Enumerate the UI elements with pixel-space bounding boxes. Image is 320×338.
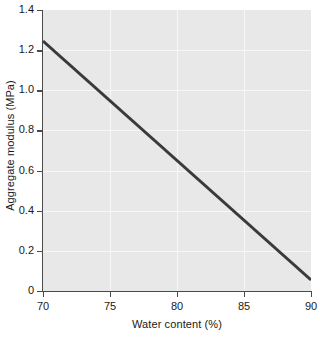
y-tick-label: 0.6: [0, 165, 34, 176]
x-axis-label: Water content (%): [43, 318, 311, 330]
x-tick-mark: [110, 292, 111, 297]
x-tick-label: 90: [291, 300, 320, 312]
y-tick-mark: [37, 171, 42, 172]
x-tick-mark: [311, 292, 312, 297]
y-tick-label: 0.4: [0, 205, 34, 216]
y-tick-mark: [37, 211, 42, 212]
data-series-line: [43, 10, 311, 291]
y-tick-mark: [37, 50, 42, 51]
y-axis-line: [42, 10, 43, 292]
chart-figure: Aggregate modulus (MPa) 00.20.40.60.81.0…: [0, 0, 320, 338]
x-tick-mark: [244, 292, 245, 297]
y-tick-mark: [37, 291, 42, 292]
y-tick-label: 0.8: [0, 124, 34, 135]
y-tick-label: 1.0: [0, 84, 34, 95]
y-tick-mark: [37, 90, 42, 91]
y-tick-mark: [37, 251, 42, 252]
x-tick-label: 80: [157, 300, 197, 312]
plot-area: [43, 10, 311, 291]
y-tick-label: 1.2: [0, 44, 34, 55]
y-tick-mark: [37, 130, 42, 131]
y-tick-label: 0.2: [0, 245, 34, 256]
x-tick-label: 70: [23, 300, 63, 312]
x-tick-mark: [177, 292, 178, 297]
x-tick-label: 85: [224, 300, 264, 312]
y-tick-label: 0: [0, 285, 34, 296]
y-tick-mark: [37, 10, 42, 11]
x-tick-label: 75: [90, 300, 130, 312]
x-tick-mark: [43, 292, 44, 297]
y-tick-label: 1.4: [0, 4, 34, 15]
series-polyline: [43, 41, 311, 280]
